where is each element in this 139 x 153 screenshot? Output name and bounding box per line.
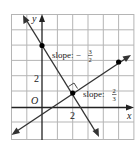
shallow-line-arrow-bottom-icon (12, 128, 21, 136)
grid (12, 14, 135, 140)
steep-slope-denominator: 2 (89, 56, 92, 63)
shallow-slope-label: slope: (83, 89, 105, 99)
steep-slope-numerator: 3 (89, 48, 92, 55)
x-tick-label: 2 (70, 110, 75, 121)
x-axis-label: x (126, 110, 132, 121)
y-tick-label: 2 (34, 73, 39, 84)
point-5-3 (116, 59, 121, 64)
point-0-4 (39, 43, 44, 48)
shallow-slope-denominator: 3 (113, 95, 116, 102)
shallow-line-arrow-top-icon (123, 55, 132, 62)
origin-label: O (31, 95, 38, 106)
point-intersection (70, 90, 75, 95)
steep-slope-label: slope: − (52, 50, 81, 60)
coordinate-plane-figure: y x O 2 2 slope: − 3 2 slope: 2 3 (0, 0, 139, 153)
y-axis-label: y (31, 13, 37, 24)
y-axis-arrow-icon (39, 14, 45, 22)
shallow-slope-numerator: 2 (113, 87, 116, 94)
